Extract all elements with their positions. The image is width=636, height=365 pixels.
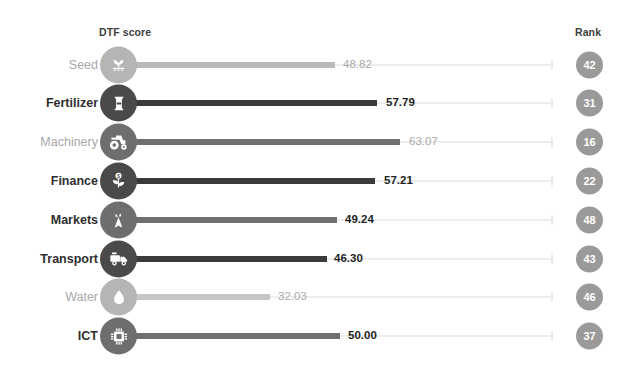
- rank-bubble-finance: 22: [576, 167, 603, 194]
- row-track-end-cap: [551, 60, 553, 69]
- value-bar-seed: [118, 62, 335, 68]
- value-bar-fertilizer: [118, 100, 377, 106]
- rank-bubble-ict: 37: [576, 323, 603, 350]
- value-label-fertilizer: 57.79: [386, 98, 415, 110]
- value-label-transport: 46.30: [334, 253, 363, 265]
- row-label-water: Water: [18, 291, 98, 304]
- value-label-markets: 49.24: [345, 214, 374, 226]
- value-label-seed: 48.82: [343, 59, 372, 71]
- rank-bubble-water: 46: [576, 284, 603, 311]
- row-track-end-cap: [551, 254, 553, 263]
- chart-row: Transport46.30 43: [0, 239, 636, 278]
- value-label-ict: 50.00: [348, 330, 377, 342]
- value-label-water: 32.03: [278, 292, 307, 304]
- rank-column-header: Rank: [575, 26, 601, 38]
- value-label-machinery: 63.07: [409, 136, 438, 148]
- chart-row: Fertilizer57.79 31: [0, 84, 636, 123]
- row-label-finance: Finance: [18, 175, 98, 188]
- row-label-seed: Seed: [18, 58, 98, 71]
- row-label-ict: ICT: [18, 330, 98, 343]
- chart-row: Seed48.82 42: [0, 45, 636, 84]
- carrot-icon: [100, 201, 137, 238]
- money-plant-icon: $: [100, 162, 137, 199]
- rank-bubble-markets: 48: [576, 206, 603, 233]
- chart-row: Finance57.21 $ 22: [0, 161, 636, 200]
- row-track-end-cap: [551, 176, 553, 185]
- value-bar-finance: [118, 178, 375, 184]
- microchip-icon: [100, 318, 137, 355]
- row-label-machinery: Machinery: [18, 136, 98, 149]
- chart-row: Machinery63.07 16: [0, 123, 636, 162]
- water-drop-icon: [100, 279, 137, 316]
- value-label-finance: 57.21: [384, 175, 413, 187]
- row-label-fertilizer: Fertilizer: [18, 97, 98, 110]
- value-bar-machinery: [118, 139, 400, 145]
- fertilizer-bag-icon: [100, 85, 137, 122]
- truck-icon: [100, 240, 137, 277]
- value-bar-transport: [118, 256, 327, 262]
- chart-row: Water32.03 46: [0, 278, 636, 317]
- seedling-icon: [100, 46, 137, 83]
- dtf-score-chart: DTF score Rank Seed48.82 42Fertilizer57.…: [0, 0, 636, 365]
- row-track-end-cap: [551, 215, 553, 224]
- row-track-end-cap: [551, 332, 553, 341]
- row-track-end-cap: [551, 99, 553, 108]
- rank-bubble-fertilizer: 31: [576, 90, 603, 117]
- value-bar-ict: [118, 333, 340, 339]
- row-track-end-cap: [551, 138, 553, 147]
- value-bar-water: [118, 294, 270, 300]
- rank-bubble-machinery: 16: [576, 129, 603, 156]
- row-label-transport: Transport: [18, 252, 98, 265]
- row-label-markets: Markets: [18, 213, 98, 226]
- rank-bubble-seed: 42: [576, 51, 603, 78]
- tractor-icon: [100, 124, 137, 161]
- rank-bubble-transport: 43: [576, 245, 603, 272]
- chart-row: ICT50.00 37: [0, 317, 636, 356]
- dtf-score-column-header: DTF score: [99, 26, 151, 38]
- value-bar-markets: [118, 217, 337, 223]
- chart-row: Markets49.24 48: [0, 200, 636, 239]
- row-track-end-cap: [551, 293, 553, 302]
